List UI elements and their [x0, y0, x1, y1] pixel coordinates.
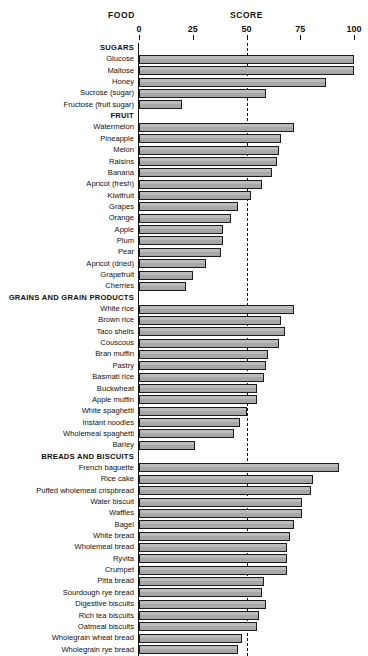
bar[interactable] [139, 634, 242, 643]
bar-row-kiwifruit[interactable]: Kiwifruit [0, 191, 368, 202]
bar[interactable] [139, 214, 231, 223]
bar-row-watermelon[interactable]: Watermelon [0, 122, 368, 133]
bar-row-apricot-dried[interactable]: Apricot (dried) [0, 259, 368, 270]
bar[interactable] [139, 134, 281, 143]
bar-row-wholemeal-spaghetti[interactable]: Wholemeal spaghetti [0, 429, 368, 440]
bar[interactable] [139, 384, 257, 393]
bar-row-instant-noodles[interactable]: Instant noodles [0, 418, 368, 429]
bar-row-white-rice[interactable]: White rice [0, 304, 368, 315]
bar-row-melon[interactable]: Melon [0, 145, 368, 156]
bar-row-ryvita[interactable]: Ryvita [0, 554, 368, 565]
bar-row-wholegrain-rye-bread[interactable]: Wholegrain rye bread [0, 645, 368, 656]
bar[interactable] [139, 305, 294, 314]
bar[interactable] [139, 645, 238, 654]
bar-row-bagel[interactable]: Bagel [0, 520, 368, 531]
bar[interactable] [139, 554, 287, 563]
bar[interactable] [139, 157, 277, 166]
bar[interactable] [139, 339, 279, 348]
bar-row-pear[interactable]: Pear [0, 247, 368, 258]
bar[interactable] [139, 271, 193, 280]
bar[interactable] [139, 395, 257, 404]
bar[interactable] [139, 236, 223, 245]
bar-row-basmati-rice[interactable]: Basmati rice [0, 372, 368, 383]
bar-row-buckwheat[interactable]: Buckwheat [0, 384, 368, 395]
bar-row-cherries[interactable]: Cherries [0, 281, 368, 292]
bar-row-raisins[interactable]: Raisins [0, 157, 368, 168]
bar-row-pitta-bread[interactable]: Pitta bread [0, 576, 368, 587]
bar[interactable] [139, 100, 182, 109]
bar-row-sucrose-sugar[interactable]: Sucrose (sugar) [0, 88, 368, 99]
bar-row-apricot-fresh[interactable]: Apricot (fresh) [0, 179, 368, 190]
bar[interactable] [139, 532, 290, 541]
bar[interactable] [139, 588, 262, 597]
bar[interactable] [139, 66, 354, 75]
bar[interactable] [139, 327, 285, 336]
bar-row-water-biscuit[interactable]: Water biscuit [0, 497, 368, 508]
bar[interactable] [139, 600, 266, 609]
bar-row-puffed-wholemeal-crispbread[interactable]: Puffed wholemeal crispbread [0, 486, 368, 497]
bar-row-apple-muffin[interactable]: Apple muffin [0, 395, 368, 406]
bar[interactable] [139, 202, 238, 211]
bar[interactable] [139, 566, 287, 575]
bar-row-orange[interactable]: Orange [0, 213, 368, 224]
bar[interactable] [139, 498, 302, 507]
bar-row-pastry[interactable]: Pastry [0, 361, 368, 372]
bar[interactable] [139, 350, 268, 359]
bar-row-pineapple[interactable]: Pineapple [0, 134, 368, 145]
bar[interactable] [139, 543, 287, 552]
bar[interactable] [139, 361, 266, 370]
bar[interactable] [139, 407, 247, 416]
bar[interactable] [139, 463, 339, 472]
bar[interactable] [139, 373, 264, 382]
bar-row-apple[interactable]: Apple [0, 225, 368, 236]
bar-row-crumpet[interactable]: Crumpet [0, 565, 368, 576]
bar[interactable] [139, 78, 326, 87]
bar-row-waffles[interactable]: Waffles [0, 508, 368, 519]
bar[interactable] [139, 622, 257, 631]
bar-row-digestive-biscuits[interactable]: Digestive biscuits [0, 599, 368, 610]
bar-row-wholemeal-bread[interactable]: Wholemeal bread [0, 542, 368, 553]
bar[interactable] [139, 429, 234, 438]
bar[interactable] [139, 520, 294, 529]
bar[interactable] [139, 486, 311, 495]
bar[interactable] [139, 146, 279, 155]
bar-row-barley[interactable]: Barley [0, 440, 368, 451]
bar[interactable] [139, 509, 302, 518]
bar[interactable] [139, 248, 221, 257]
bar-row-grapes[interactable]: Grapes [0, 202, 368, 213]
bar[interactable] [139, 225, 223, 234]
bar-row-white-spaghetti[interactable]: White spaghetti [0, 406, 368, 417]
bar-row-plum[interactable]: Plum [0, 236, 368, 247]
bar-row-rich-tea-biscuits[interactable]: Rich tea biscuits [0, 611, 368, 622]
bar-row-maltose[interactable]: Maltose [0, 66, 368, 77]
bar-row-banana[interactable]: Banana [0, 168, 368, 179]
bar[interactable] [139, 441, 195, 450]
bar[interactable] [139, 418, 240, 427]
bar-row-fructose-fruit-sugar[interactable]: Fructose (fruit sugar) [0, 100, 368, 111]
bar[interactable] [139, 577, 264, 586]
bar-row-glucose[interactable]: Glucose [0, 54, 368, 65]
bar[interactable] [139, 191, 251, 200]
bar-row-brown-rice[interactable]: Brown rice [0, 315, 368, 326]
bar[interactable] [139, 259, 206, 268]
bar[interactable] [139, 316, 281, 325]
bar-row-grapefruit[interactable]: Grapefruit [0, 270, 368, 281]
bar-row-bran-muffin[interactable]: Bran muffin [0, 349, 368, 360]
bar-row-white-bread[interactable]: White bread [0, 531, 368, 542]
bar[interactable] [139, 611, 259, 620]
bar-row-sourdough-rye-bread[interactable]: Sourdough rye bread [0, 588, 368, 599]
bar-row-honey[interactable]: Honey [0, 77, 368, 88]
bar[interactable] [139, 180, 262, 189]
bar-row-oatmeal-biscuits[interactable]: Oatmeal biscuits [0, 622, 368, 633]
bar[interactable] [139, 168, 272, 177]
bar-row-french-baguette[interactable]: French baguette [0, 463, 368, 474]
bar-row-couscous[interactable]: Couscous [0, 338, 368, 349]
bar-row-taco-shells[interactable]: Taco shells [0, 327, 368, 338]
bar[interactable] [139, 123, 294, 132]
bar[interactable] [139, 475, 313, 484]
bar-row-rice-cake[interactable]: Rice cake [0, 474, 368, 485]
bar[interactable] [139, 55, 354, 64]
bar-row-wholegrain-wheat-bread[interactable]: Wholegrain wheat bread [0, 633, 368, 644]
bar[interactable] [139, 282, 186, 291]
bar[interactable] [139, 89, 266, 98]
